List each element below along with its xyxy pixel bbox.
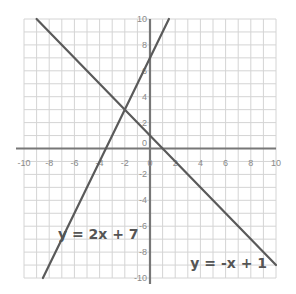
equation-label: y = -x + 1: [190, 255, 267, 271]
x-tick-label: -2: [121, 158, 129, 168]
y-tick-label: 8: [142, 40, 147, 50]
y-tick-label: 10: [137, 14, 147, 24]
y-tick-label: 2: [142, 118, 147, 128]
axes: [16, 19, 276, 284]
y-tick-label: -6: [139, 221, 147, 231]
y-tick-label: 0: [142, 138, 147, 148]
x-tick-label: 0: [147, 158, 152, 168]
x-tick-label: 10: [271, 158, 281, 168]
y-tick-label: -2: [139, 169, 147, 179]
x-tick-label: -10: [17, 158, 30, 168]
y-tick-label: -8: [139, 247, 147, 257]
equation-label: y = 2x + 7: [58, 226, 139, 242]
y-tick-label: -10: [134, 273, 147, 283]
x-tick-label: -8: [45, 158, 53, 168]
x-tick-label: 4: [198, 158, 203, 168]
y-tick-label: -4: [139, 195, 147, 205]
coordinate-plane-chart: -10-8-6-4-2246810-10-8-6-4-202468100 y =…: [0, 0, 296, 294]
x-tick-label: 8: [248, 158, 253, 168]
x-tick-label: 6: [223, 158, 228, 168]
y-tick-label: 4: [142, 92, 147, 102]
x-tick-label: -6: [70, 158, 78, 168]
